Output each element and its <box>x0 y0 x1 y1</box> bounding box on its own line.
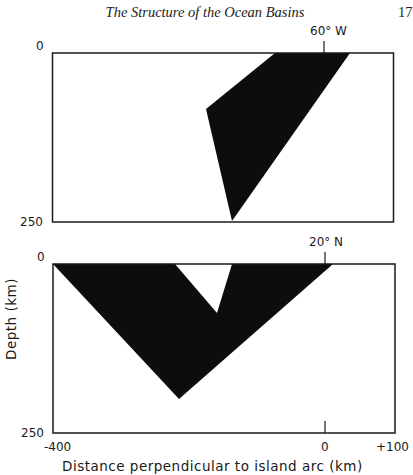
top-panel: 60° W 0 250 <box>20 24 394 229</box>
top-y-tick-250: 250 <box>20 215 43 229</box>
bottom-y-tick-0: 0 <box>37 250 45 264</box>
top-title: 60° W <box>310 24 347 38</box>
x-axis-label: Distance perpendicular to island arc (km… <box>62 458 363 474</box>
x-tick-pos100: +100 <box>376 440 409 454</box>
top-y-tick-0: 0 <box>36 39 44 53</box>
y-axis-label: Depth (km) <box>3 278 19 360</box>
bottom-panel: 20° N 0 250 -400 0 +100 Distance perpend… <box>3 235 409 474</box>
top-seismic-zone <box>206 53 350 221</box>
x-tick-neg400: -400 <box>44 440 71 454</box>
bottom-seismic-zone <box>53 264 333 399</box>
bottom-y-tick-250: 250 <box>21 426 44 440</box>
x-tick-0: 0 <box>321 440 329 454</box>
bottom-title: 20° N <box>309 235 343 249</box>
